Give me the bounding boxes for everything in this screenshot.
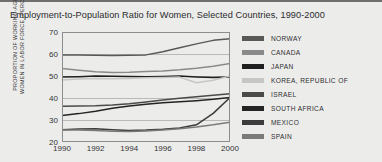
legend-label: JAPAN (271, 63, 294, 70)
legend-item[interactable]: KOREA, REPUBLIC OF (242, 73, 348, 87)
legend-label: ISRAEL (271, 91, 297, 98)
legend-item[interactable]: CANADA (242, 45, 348, 59)
y-tick-label: 70 (49, 28, 58, 37)
legend-swatch-icon (242, 120, 264, 125)
x-tick-label: 1996 (154, 144, 172, 153)
y-axis-ticks: 203040506070 (36, 32, 58, 142)
x-tick-label: 2000 (221, 144, 239, 153)
legend-label: MEXICO (271, 119, 299, 126)
x-tick-label: 1990 (53, 144, 71, 153)
x-tick-label: 1998 (187, 144, 205, 153)
y-tick-label: 60 (49, 50, 58, 59)
legend-item[interactable]: NORWAY (242, 31, 348, 45)
legend-label: SPAIN (271, 133, 292, 140)
legend-label: KOREA, REPUBLIC OF (271, 77, 348, 84)
legend: NORWAYCANADAJAPANKOREA, REPUBLIC OFISRAE… (242, 31, 348, 143)
y-axis-label: PROPORTION OF WORKING-AGE WOMEN IN LABOR… (12, 0, 26, 94)
x-tick-label: 1994 (120, 144, 138, 153)
plot-border (62, 32, 230, 142)
legend-label: NORWAY (271, 35, 302, 42)
legend-swatch-icon (242, 50, 264, 55)
y-tick-label: 30 (49, 116, 58, 125)
legend-swatch-icon (242, 92, 264, 97)
legend-swatch-icon (242, 134, 264, 139)
y-tick-label: 50 (49, 72, 58, 81)
legend-item[interactable]: ISRAEL (242, 87, 348, 101)
legend-item[interactable]: MEXICO (242, 115, 348, 129)
plot-area (62, 32, 230, 142)
legend-swatch-icon (242, 106, 264, 111)
legend-item[interactable]: SPAIN (242, 129, 348, 143)
y-axis-label-line1: PROPORTION OF WORKING-AGE (12, 0, 19, 94)
y-axis-label-line2: WOMEN IN LABOR FORCE (PERCENT) (19, 0, 26, 94)
x-axis-ticks: 199019921994199619982000 (62, 144, 230, 156)
legend-label: CANADA (271, 49, 301, 56)
chart-figure: Employment-to-Population Ratio for Women… (0, 0, 382, 162)
legend-swatch-icon (242, 36, 264, 41)
x-tick-label: 1992 (87, 144, 105, 153)
chart-title: Employment-to-Population Ratio for Women… (10, 10, 325, 20)
legend-item[interactable]: SOUTH AFRICA (242, 101, 348, 115)
y-tick-label: 40 (49, 94, 58, 103)
legend-label: SOUTH AFRICA (271, 105, 324, 112)
legend-item[interactable]: JAPAN (242, 59, 348, 73)
legend-swatch-icon (242, 78, 264, 83)
legend-swatch-icon (242, 64, 264, 69)
